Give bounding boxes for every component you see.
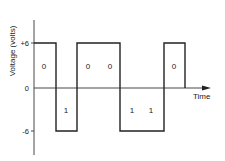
bit-label: 0 [172, 62, 177, 71]
y-axis-title: Voltage (volts) [8, 25, 17, 76]
voltage-waveform-diagram: +6 0 -6 Voltage (volts) Time 0 1 0 0 1 1… [0, 0, 225, 161]
tick-label-zero: 0 [25, 84, 29, 93]
bit-label: 0 [42, 62, 47, 71]
tick-label-pos6: +6 [20, 39, 29, 48]
bit-label: 0 [108, 62, 113, 71]
x-axis-title: Time [193, 92, 211, 101]
tick-label-neg6: -6 [22, 127, 29, 136]
square-waveform [34, 43, 185, 131]
x-axis-arrow-icon [202, 86, 211, 91]
bit-label: 1 [64, 106, 69, 115]
bit-label: 1 [149, 106, 154, 115]
bit-label: 1 [130, 106, 135, 115]
bit-label: 0 [86, 62, 91, 71]
